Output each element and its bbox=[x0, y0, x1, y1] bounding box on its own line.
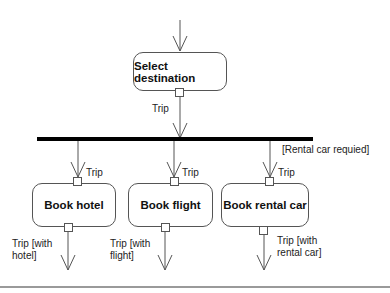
input-pin-car[interactable] bbox=[265, 177, 274, 186]
guard-label-rental-car: [Rental car requied] bbox=[282, 144, 369, 156]
pin-label-car-out-line1: Trip [with bbox=[277, 235, 317, 247]
bottom-divider bbox=[0, 286, 390, 288]
input-pin-hotel[interactable] bbox=[73, 177, 82, 186]
input-pin-flight[interactable] bbox=[170, 177, 179, 186]
pin-label-select-out: Trip bbox=[152, 103, 169, 115]
action-label: Book rental car bbox=[223, 199, 307, 211]
fork-bar bbox=[37, 137, 313, 141]
pin-label-car-in: Trip bbox=[278, 167, 295, 179]
action-book-rental-car[interactable]: Book rental car bbox=[221, 183, 309, 227]
output-pin-car[interactable] bbox=[259, 226, 268, 235]
pin-label-flight-out-line1: Trip [with bbox=[110, 238, 150, 250]
action-book-hotel[interactable]: Book hotel bbox=[32, 183, 116, 227]
action-label: Select destination bbox=[134, 60, 226, 84]
pin-label-flight-in: Trip bbox=[182, 167, 199, 179]
action-book-flight[interactable]: Book flight bbox=[128, 183, 213, 227]
output-pin-hotel[interactable] bbox=[64, 223, 73, 232]
output-pin-select[interactable] bbox=[175, 88, 184, 97]
pin-label-hotel-in: Trip bbox=[86, 167, 103, 179]
output-pin-flight[interactable] bbox=[161, 223, 170, 232]
pin-label-car-out-line2: rental car] bbox=[277, 247, 321, 259]
action-select-destination[interactable]: Select destination bbox=[133, 52, 227, 91]
pin-label-hotel-out-line2: hotel] bbox=[12, 250, 36, 262]
pin-label-flight-out-line2: flight] bbox=[110, 250, 134, 262]
action-label: Book flight bbox=[140, 199, 200, 211]
pin-label-hotel-out-line1: Trip [with bbox=[12, 238, 52, 250]
action-label: Book hotel bbox=[44, 199, 103, 211]
